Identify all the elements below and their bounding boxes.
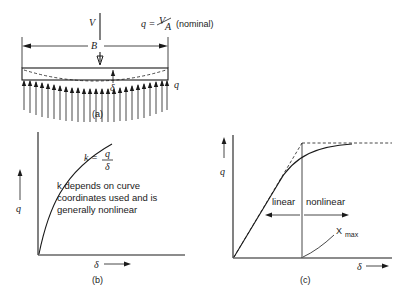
linear-range-arrow-left	[265, 213, 272, 218]
panel-c-x-arrow-head	[382, 264, 389, 269]
nonlinear-label: nonlinear	[306, 196, 345, 207]
panel-b-y-arrow-head	[18, 169, 23, 176]
load-label: V	[89, 17, 97, 28]
panel-b-x-axis-label-group: δ	[94, 259, 131, 270]
pressure-formula-denominator: A	[164, 21, 172, 32]
width-dimension-group: B	[22, 37, 168, 68]
panel-c-x-axis-label-group: δ	[357, 261, 389, 272]
width-label: B	[91, 40, 97, 51]
footing-group	[22, 68, 168, 81]
engineering-figure: q = V A (nominal) V B	[0, 0, 400, 292]
panel-c: q δ linear nonlinear X max	[220, 135, 392, 285]
caption-c: (c)	[300, 275, 311, 285]
k-formula-group: k = q δ	[84, 148, 113, 172]
panel-b: q δ k = q δ k depends on curve coordinat…	[16, 132, 185, 285]
panel-b-y-axis-label-group: q	[16, 169, 22, 214]
pressure-formula-group: q = V A (nominal)	[141, 15, 214, 32]
reaction-label: q	[174, 79, 179, 90]
footing-rect	[22, 68, 168, 80]
linear-label: linear	[272, 196, 295, 207]
panel-b-note-line-2: coordinates used and is	[57, 192, 158, 203]
panel-c-y-axis-label-group: q	[220, 137, 226, 177]
k-formula-prefix: k =	[84, 152, 98, 163]
pressure-formula-prefix: q =	[141, 18, 155, 29]
panel-b-x-arrow-head	[124, 262, 131, 267]
caption-a: (a)	[92, 109, 103, 119]
k-formula-numerator: q	[105, 148, 110, 159]
deflection-arrow-head	[111, 70, 115, 76]
figure-container: q = V A (nominal) V B	[0, 0, 400, 292]
panel-b-x-axis-label: δ	[94, 259, 99, 270]
xmax-group: X max	[303, 226, 359, 257]
panel-c-range-group: linear nonlinear	[265, 196, 349, 217]
xmax-label: X	[336, 226, 342, 236]
panel-b-note-line-3: generally nonlinear	[57, 204, 137, 215]
nonlinear-range-arrow-right	[342, 213, 349, 218]
k-formula-denominator: δ	[105, 161, 110, 172]
panel-c-x-axis-label: δ	[357, 261, 362, 272]
panel-a: q = V A (nominal) V B	[22, 13, 214, 122]
load-arrow-group: V	[89, 13, 103, 65]
panel-c-y-arrow-head	[222, 137, 227, 144]
dim-arrow-right	[159, 43, 168, 48]
dim-arrow-left	[22, 43, 31, 48]
panel-b-y-axis-label: q	[16, 203, 21, 214]
xmax-leader-line	[303, 235, 334, 257]
deflected-shape	[24, 70, 166, 81]
caption-b: (b)	[92, 275, 103, 285]
pressure-formula-suffix: (nominal)	[176, 19, 214, 29]
panel-c-y-axis-label: q	[220, 166, 225, 177]
xmax-sublabel: max	[345, 231, 359, 238]
panel-b-note-line-1: k depends on curve	[57, 180, 140, 191]
